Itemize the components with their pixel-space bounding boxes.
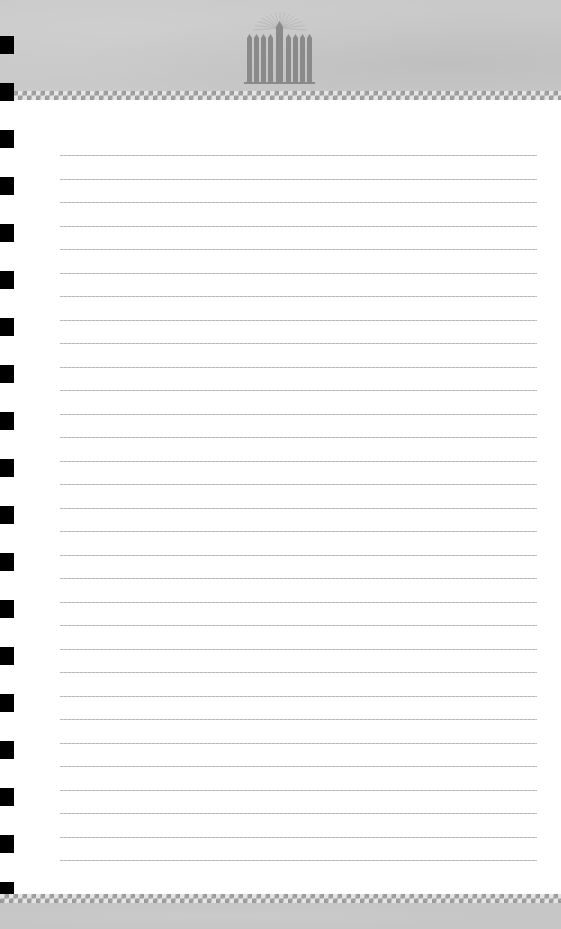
binder-hole [0, 177, 14, 195]
rule-line [60, 249, 537, 250]
rule-line [60, 202, 537, 203]
rule-line [60, 578, 537, 579]
rule-line [60, 743, 537, 744]
rule-line [60, 837, 537, 838]
binder-hole [0, 741, 14, 759]
rule-line [60, 484, 537, 485]
rule-line [60, 860, 537, 861]
binder-hole [0, 459, 14, 477]
rule-line [60, 437, 537, 438]
rule-line [60, 625, 537, 626]
rule-line [60, 296, 537, 297]
rule-line [60, 602, 537, 603]
footer-band [0, 903, 561, 929]
rule-line [60, 390, 537, 391]
binder-hole [0, 600, 14, 618]
rule-line [60, 155, 537, 156]
lined-page [0, 100, 561, 894]
rule-line [60, 790, 537, 791]
rule-line [60, 696, 537, 697]
binder-hole [0, 83, 14, 101]
binder-hole [0, 835, 14, 853]
binder-hole [0, 271, 14, 289]
binder-hole [0, 506, 14, 524]
binder-hole [0, 130, 14, 148]
binder-hole [0, 412, 14, 430]
rule-line [60, 531, 537, 532]
binder-hole [0, 36, 14, 54]
rule-line [60, 555, 537, 556]
menorah-icon [240, 8, 320, 88]
rule-line [60, 367, 537, 368]
header-checkered-border [0, 91, 561, 100]
menorah-logo [240, 8, 320, 88]
rule-line [60, 766, 537, 767]
rule-line [60, 813, 537, 814]
rule-line [60, 649, 537, 650]
rule-line [60, 226, 537, 227]
rule-line [60, 343, 537, 344]
binder-hole [0, 365, 14, 383]
rule-line [60, 461, 537, 462]
rule-line [60, 179, 537, 180]
rule-line [60, 320, 537, 321]
binder-hole [0, 318, 14, 336]
binder-hole [0, 553, 14, 571]
rule-line [60, 719, 537, 720]
footer-checkered-border [0, 894, 561, 903]
rule-line [60, 273, 537, 274]
rule-line [60, 414, 537, 415]
binder-hole [0, 694, 14, 712]
binder-hole [0, 788, 14, 806]
binder-hole [0, 647, 14, 665]
binder-hole [0, 224, 14, 242]
rule-line [60, 672, 537, 673]
rule-line [60, 508, 537, 509]
